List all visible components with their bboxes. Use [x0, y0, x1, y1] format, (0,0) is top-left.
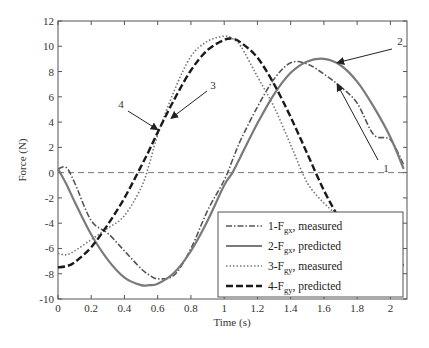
- y-tick-label: 10: [43, 40, 55, 52]
- y-tick-label: -2: [45, 192, 54, 204]
- x-tick-label: 0.4: [118, 302, 132, 314]
- y-tick-label: 4: [49, 116, 55, 128]
- annotation-label: 1: [383, 162, 389, 174]
- y-tick-label: -10: [39, 293, 54, 305]
- y-tick-label: -6: [45, 242, 55, 254]
- x-tick-label: 2: [388, 302, 394, 314]
- x-tick-label: 1: [221, 302, 227, 314]
- y-tick-label: 2: [49, 141, 55, 153]
- x-tick-label: 0.2: [84, 302, 98, 314]
- force-time-chart: 00.20.40.60.811.21.41.61.82 -10-8-6-4-20…: [0, 0, 429, 348]
- x-tick-label: 1.6: [317, 302, 331, 314]
- y-tick-label: -4: [45, 217, 55, 229]
- y-tick-label: 6: [49, 91, 55, 103]
- x-tick-label: 0.6: [151, 302, 165, 314]
- x-axis-label: Time (s): [213, 316, 251, 329]
- y-axis-label: Force (N): [16, 138, 29, 181]
- annotation-label: 3: [210, 79, 216, 91]
- y-tick-label: 12: [43, 15, 54, 27]
- y-tick-label: 0: [49, 167, 55, 179]
- y-tick-label: 8: [49, 66, 55, 78]
- legend: 1-Fgx, measured2-Fgx, predicted3-Fgy, me…: [218, 212, 403, 297]
- x-tick-label: 1.2: [251, 302, 265, 314]
- y-tick-label: -8: [45, 268, 55, 280]
- annotation-label: 2: [397, 35, 403, 47]
- annotation-label: 4: [118, 98, 124, 110]
- x-tick-label: 0: [55, 302, 61, 314]
- x-tick-label: 0.8: [184, 302, 198, 314]
- x-tick-label: 1.4: [284, 302, 298, 314]
- x-tick-label: 1.8: [350, 302, 364, 314]
